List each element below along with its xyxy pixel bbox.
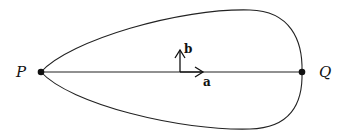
diagram-canvas: P Q b a [0, 0, 346, 135]
label-q: Q [319, 63, 331, 81]
point-p [38, 69, 45, 76]
label-p: P [15, 63, 27, 81]
point-q [299, 69, 306, 76]
label-b: b [184, 42, 192, 56]
label-a: a [203, 75, 211, 89]
closed-curve [41, 10, 302, 129]
vector-a-arrow-icon [180, 67, 203, 77]
